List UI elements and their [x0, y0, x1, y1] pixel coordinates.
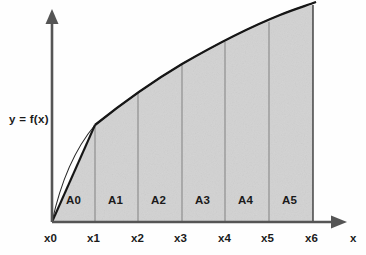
region-label-a0: A0	[66, 194, 81, 206]
region-label-a1: A1	[108, 194, 123, 206]
tick-label-x0: x0	[44, 232, 57, 244]
x-axis-arrow-icon	[331, 216, 347, 229]
y-axis-arrow-icon	[46, 9, 59, 24]
region-label-a5: A5	[282, 194, 297, 206]
function-label: y = f(x)	[9, 113, 49, 125]
area-under-curve-figure: y = f(x) x0 x1 x2 x3 x4 x5 x6 x A0 A1 A2…	[0, 0, 366, 255]
region-label-a3: A3	[195, 194, 210, 206]
tick-label-x6: x6	[305, 232, 318, 244]
tick-label-x1: x1	[87, 232, 100, 244]
tick-label-x5: x5	[261, 232, 274, 244]
figure-canvas	[0, 0, 366, 255]
tick-label-x4: x4	[218, 232, 231, 244]
tick-label-x3: x3	[174, 232, 187, 244]
region-label-a4: A4	[238, 194, 253, 206]
tick-label-x2: x2	[131, 232, 144, 244]
region-label-a2: A2	[151, 194, 166, 206]
x-axis-name: x	[350, 232, 356, 244]
